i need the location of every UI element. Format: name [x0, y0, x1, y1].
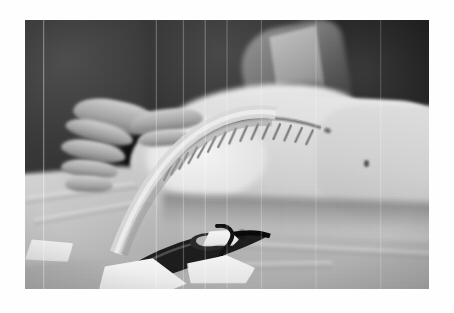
- intraoperative-clinical-photograph: [25, 20, 429, 289]
- page-root: [0, 0, 454, 313]
- surgical-clip: [207, 224, 247, 256]
